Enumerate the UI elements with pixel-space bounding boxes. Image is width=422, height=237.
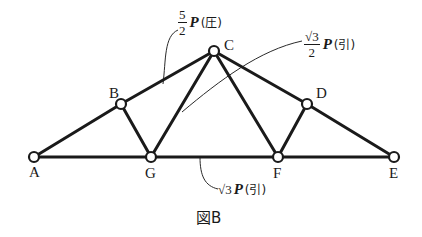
node-label-g: G — [145, 166, 156, 181]
node-c-hinge-icon — [209, 46, 219, 56]
node-a-hinge-icon — [29, 152, 39, 162]
node-g-hinge-icon — [146, 152, 156, 162]
member-cf — [214, 51, 278, 157]
member-bc — [121, 51, 214, 104]
leader-line-gf — [200, 157, 218, 189]
node-label-b: B — [109, 86, 119, 101]
force-kind: (圧) — [201, 17, 222, 29]
member-fd — [278, 104, 307, 157]
member-cd — [214, 51, 307, 104]
coefficient-sqrt: √3 — [218, 183, 232, 196]
force-kind: (引) — [334, 39, 355, 51]
node-f-hinge-icon — [273, 152, 283, 162]
node-label-e: E — [389, 166, 398, 181]
member-ab — [34, 104, 121, 157]
node-label-f: F — [273, 166, 281, 181]
figure-caption: 図B — [196, 206, 221, 227]
node-e-hinge-icon — [389, 152, 399, 162]
force-label-gc: √3 2 P (引) — [304, 30, 355, 59]
node-label-a: A — [29, 165, 40, 180]
force-label-gf: √3 P (引) — [218, 182, 266, 197]
coefficient-fraction: 5 2 — [178, 8, 187, 37]
force-label-bc: 5 2 P (圧) — [178, 8, 222, 37]
member-de — [307, 104, 394, 157]
member-gc — [151, 51, 214, 157]
node-label-d: D — [316, 86, 327, 101]
node-label-c: C — [224, 38, 234, 53]
member-bg — [121, 104, 151, 157]
coefficient-fraction: √3 2 — [304, 30, 320, 59]
force-kind: (引) — [245, 184, 266, 196]
node-d-hinge-icon — [302, 99, 312, 109]
